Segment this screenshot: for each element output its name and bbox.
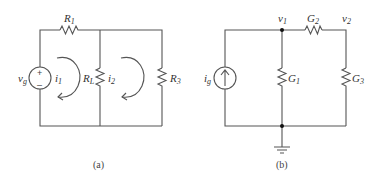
label-v2: v2 [342, 12, 351, 26]
resistor-rl-icon [96, 68, 104, 88]
plus-sign: + [37, 68, 42, 78]
label-vg: vg [18, 72, 27, 86]
mesh-current-i2-arrowhead-icon [122, 93, 127, 100]
label-v1: v1 [278, 12, 287, 26]
wire-left [225, 30, 305, 67]
node-v1-dot [280, 28, 284, 32]
circuit-b: v1 v2 G2 G1 G3 ig (b) [204, 12, 364, 171]
resistor-r1-icon [60, 26, 80, 34]
label-r1: R1 [63, 12, 75, 26]
caption-b: (b) [276, 159, 288, 171]
resistor-r3-icon [158, 68, 166, 88]
wire-bottom [40, 89, 162, 126]
circuit-a: + – R1 RL R3 vg i1 i2 (a) [18, 12, 181, 171]
conductance-g3-icon [342, 68, 350, 88]
caption-a: (a) [93, 159, 104, 171]
node-ground-dot [280, 124, 284, 128]
conductance-g2-icon [305, 26, 322, 34]
label-g2: G2 [307, 12, 319, 26]
circuit-figure: + – R1 RL R3 vg i1 i2 (a) [0, 0, 377, 182]
wire-top-left [40, 30, 60, 67]
label-rl: RL [82, 72, 95, 86]
current-source-arrow-icon [221, 70, 229, 86]
label-i2: i2 [108, 72, 115, 86]
mesh-current-i2-arrow-icon [121, 57, 144, 97]
ground-icon [274, 147, 290, 153]
wire-top-right [322, 30, 346, 68]
label-g3: G3 [352, 72, 364, 86]
minus-sign: – [37, 80, 42, 90]
conductance-g1-icon [278, 68, 286, 88]
mesh-current-i1-arrowhead-icon [58, 93, 63, 100]
label-r3: R3 [169, 72, 181, 86]
label-i1: i1 [55, 72, 62, 86]
wire-top-right [80, 30, 162, 68]
label-g1: G1 [288, 72, 300, 86]
wire-bottom [225, 89, 346, 126]
label-ig: ig [204, 72, 211, 86]
